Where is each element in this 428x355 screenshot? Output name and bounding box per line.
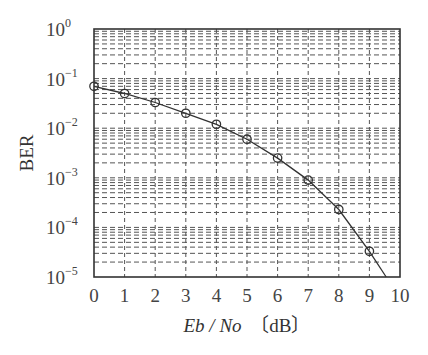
x-tick-label: 7 bbox=[303, 285, 313, 306]
x-tick-label: 1 bbox=[120, 285, 130, 306]
x-tick-label: 6 bbox=[273, 285, 283, 306]
y-tick-label: 10−1 bbox=[46, 66, 78, 90]
x-tick-label: 0 bbox=[89, 285, 99, 306]
x-tick-label: 9 bbox=[365, 285, 375, 306]
y-tick-label: 100 bbox=[46, 16, 71, 40]
y-tick-label: 10−5 bbox=[46, 264, 78, 288]
x-tick-label: 10 bbox=[391, 285, 410, 306]
y-axis-title: BER bbox=[16, 134, 37, 171]
y-tick-label: 10−2 bbox=[46, 115, 78, 139]
grid-lines bbox=[94, 29, 400, 277]
ber-curve bbox=[94, 86, 386, 277]
y-tick-label: 10−4 bbox=[46, 214, 78, 238]
x-tick-label: 3 bbox=[181, 285, 191, 306]
x-tick-label: 8 bbox=[334, 285, 344, 306]
x-axis-tick-labels: 012345678910 bbox=[89, 285, 409, 306]
ber-chart: 10010−110−210−310−410−5 012345678910 BER… bbox=[0, 0, 428, 355]
x-tick-label: 5 bbox=[242, 285, 252, 306]
x-axis-title: Eb / No 〔dB〕 bbox=[183, 315, 311, 336]
x-axis-title-italic: Eb / No bbox=[183, 315, 242, 336]
x-axis-title-unit: 〔dB〕 bbox=[250, 315, 310, 336]
y-tick-label: 10−3 bbox=[46, 165, 78, 189]
x-tick-label: 4 bbox=[212, 285, 222, 306]
x-tick-label: 2 bbox=[150, 285, 160, 306]
y-axis-tick-labels: 10010−110−210−310−410−5 bbox=[46, 16, 78, 288]
